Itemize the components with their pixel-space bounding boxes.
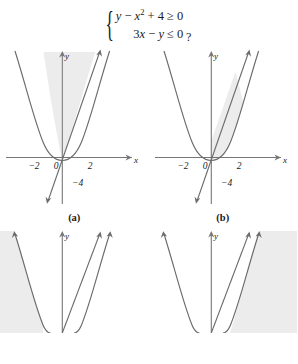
y-axis-label-b: y — [213, 51, 218, 61]
eq1-relation: ≥ — [167, 9, 174, 23]
caption-b: (b) — [149, 212, 298, 223]
x-axis-label-a: x — [133, 155, 138, 165]
y-axis-label-c: y — [64, 231, 69, 241]
graph-a[interactable]: x y −2 — [0, 46, 149, 211]
line-curve-c — [62, 232, 102, 333]
eq1-minus: − — [124, 9, 131, 23]
graph-c-svg: y — [0, 223, 149, 333]
shaded-region-c — [0, 231, 43, 333]
system-of-inequalities: { y − x2 + 4 ≥ 0 3x − y ≤ 0 ? — [0, 6, 297, 43]
eq2-y: y — [158, 27, 164, 41]
caption-a: (a) — [0, 212, 149, 223]
shaded-region-a — [15, 52, 96, 158]
system-inner: { y − x2 + 4 ≥ 0 3x − y ≤ 0 ? — [114, 6, 184, 43]
eq1-y: y — [116, 9, 122, 23]
eq1-exponent: 2 — [140, 7, 144, 17]
x-axis-a — [6, 154, 132, 160]
tick-label-pos2-b: 2 — [236, 161, 241, 171]
tick-label-neg4-a: −4 — [72, 178, 83, 188]
question-mark: ? — [186, 29, 191, 46]
y-axis-label-d: y — [213, 231, 218, 241]
graph-d-svg: y — [149, 223, 298, 333]
tick-label-neg4-b: −4 — [221, 178, 232, 188]
tick-label-origin-a: 0 — [54, 161, 59, 171]
graph-b[interactable]: x y −2 — [149, 46, 298, 211]
answer-choice-b[interactable]: x y −2 — [149, 46, 298, 223]
tick-label-pos2-a: 2 — [88, 161, 93, 171]
y-axis-c — [59, 231, 65, 333]
panel-row-bottom: y — [0, 223, 297, 334]
graph-d[interactable]: y — [149, 223, 298, 333]
inequality-row-1: y − x2 + 4 ≥ 0 — [114, 6, 184, 25]
y-axis-d — [208, 231, 214, 333]
eq2-rhs: 0 — [177, 27, 183, 41]
inequality-row-2: 3x − y ≤ 0 — [114, 25, 184, 43]
y-axis-b — [208, 51, 214, 204]
x-axis-label-b: x — [282, 155, 287, 165]
shaded-region-d — [230, 231, 298, 333]
answer-choice-grid: x y −2 — [0, 46, 297, 334]
eq2-minus: − — [148, 27, 155, 41]
answer-choice-a[interactable]: x y −2 — [0, 46, 149, 223]
tick-label-neg2-b: −2 — [177, 161, 188, 171]
graph-c[interactable]: y — [0, 223, 149, 333]
eq1-rhs: 0 — [177, 9, 183, 23]
panel-row-top: x y −2 — [0, 46, 297, 223]
y-axis-label-a: y — [64, 51, 69, 61]
eq2-x: x — [140, 27, 146, 41]
brace-glyph: { — [105, 7, 113, 42]
tick-label-origin-b: 0 — [202, 161, 207, 171]
graph-b-svg: x y −2 — [149, 46, 298, 211]
eq1-plus-four: + 4 — [148, 9, 164, 23]
tick-label-neg2-a: −2 — [28, 161, 39, 171]
graph-a-svg: x y −2 — [0, 46, 149, 211]
answer-choice-d[interactable]: y — [149, 223, 298, 334]
answer-choice-c[interactable]: y — [0, 223, 149, 334]
eq2-relation: ≤ — [167, 27, 174, 41]
